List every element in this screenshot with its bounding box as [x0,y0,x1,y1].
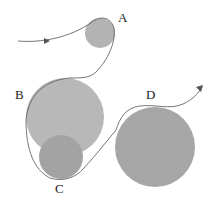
circle-c [39,135,83,179]
circle-path-diagram: A B C D [0,0,220,207]
start-arrow-icon [44,38,50,44]
label-a: A [118,10,128,25]
label-c: C [55,181,64,196]
circle-a [85,18,115,48]
label-d: D [146,87,155,102]
circle-d [115,107,195,187]
label-b: B [15,87,24,102]
